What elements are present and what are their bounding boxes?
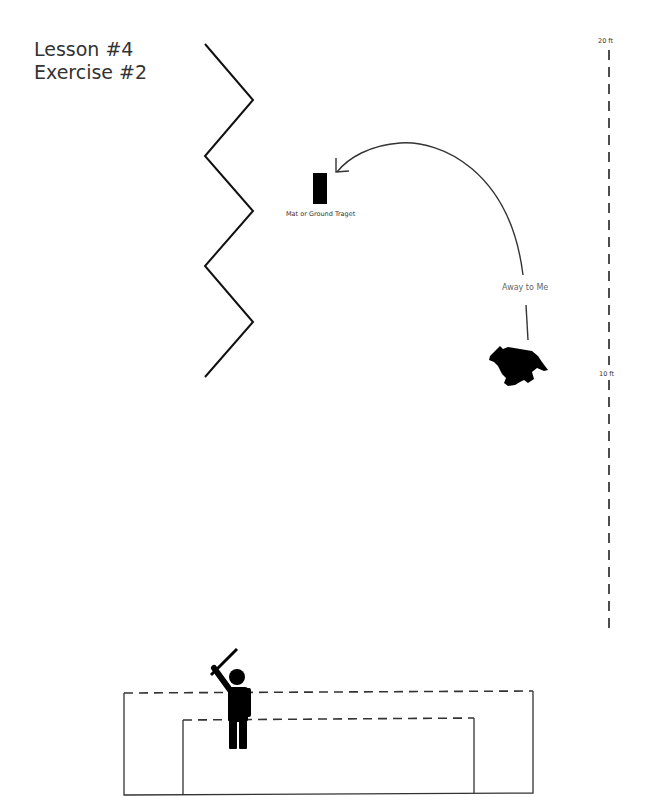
curved-arrow-icon bbox=[336, 143, 528, 340]
scale-label-10ft: 10 ft bbox=[599, 370, 614, 378]
zigzag-fence-icon bbox=[205, 44, 253, 377]
command-label: Away to Me bbox=[502, 283, 548, 292]
pen-enclosure-icon bbox=[124, 691, 533, 795]
handler-with-stick-icon bbox=[211, 649, 251, 749]
scale-label-20ft: 20 ft bbox=[598, 37, 613, 45]
dog-silhouette-icon bbox=[489, 346, 548, 386]
lesson-number: Lesson #4 bbox=[34, 38, 147, 61]
page-title: Lesson #4 Exercise #2 bbox=[34, 38, 147, 84]
mat-icon bbox=[313, 173, 327, 204]
diagram-canvas bbox=[0, 0, 654, 810]
mat-label: Mat or Ground Traget bbox=[286, 210, 355, 218]
exercise-number: Exercise #2 bbox=[34, 61, 147, 84]
